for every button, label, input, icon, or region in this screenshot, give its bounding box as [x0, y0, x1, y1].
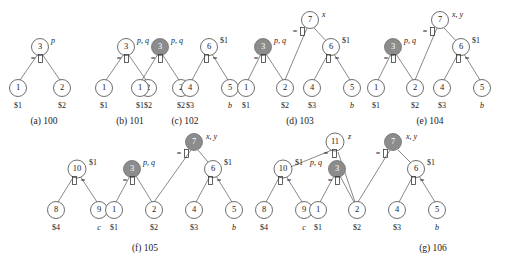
node-6-label: 6	[207, 41, 211, 51]
edge	[42, 54, 60, 80]
panel-d: 7 x = 3 p, q = 1 $1 2 $2 6 $1 = 4 $3 5 b…	[248, 8, 383, 128]
node-3-op-equals: =	[254, 54, 259, 63]
node-3-label: 3	[130, 163, 134, 173]
node-7-op-equals: =	[177, 149, 182, 158]
node-1-label: 1	[112, 204, 116, 214]
node-6-op-equals: =	[335, 54, 340, 63]
node-11-op-equals: =	[324, 149, 329, 158]
node-5-label: 5	[228, 82, 232, 92]
node-7-op-equals: =	[376, 149, 381, 158]
node-2-label: 2	[355, 204, 359, 214]
node-3-side-label: p, q	[142, 158, 155, 167]
node-5-label: 5	[435, 204, 439, 214]
node-1-label: 1	[102, 82, 106, 92]
node-1-label: 1	[374, 82, 378, 92]
node-8-leaf-label: $4	[52, 223, 60, 232]
node-3-side-label: p, q	[273, 36, 286, 45]
node-3-side-label: p	[50, 36, 55, 45]
node-5-leaf-label: b	[228, 101, 232, 110]
node-1-label: 1	[138, 82, 142, 92]
node-7-side-label: x	[321, 10, 326, 19]
panel-e-caption: (e) 104	[416, 116, 443, 127]
node-7-op-box-icon	[431, 28, 435, 36]
node-9-label: 9	[97, 204, 101, 214]
panel-f-caption: (f) 105	[132, 243, 158, 254]
panel-d-caption: (d) 103	[286, 116, 314, 127]
node-10-op-equals: =	[81, 176, 86, 185]
node-5-label: 5	[350, 82, 354, 92]
edge	[396, 54, 413, 80]
node-10-label: 10	[73, 163, 82, 173]
node-3-op-equals: =	[31, 54, 36, 63]
node-2-label: 2	[152, 204, 156, 214]
node-3-op-equals: =	[117, 54, 122, 63]
node-4-leaf-label: $3	[393, 223, 401, 232]
node-3-label: 3	[158, 41, 162, 51]
node-5-leaf-label: b	[232, 223, 236, 232]
edge	[266, 176, 280, 202]
node-5-leaf-label: b	[480, 101, 484, 110]
node-2-label: 2	[283, 82, 287, 92]
node-3-op-equals: =	[151, 54, 156, 63]
node-8-leaf-label: $4	[260, 223, 268, 232]
node-6-label: 6	[414, 163, 418, 173]
edge	[106, 54, 124, 80]
panel-e: 7 x, y = 3 p, q = 1 $1 2 $2 6 $1 = 4 $3 …	[378, 8, 518, 128]
node-3-side-label: p, q	[170, 36, 183, 45]
node-8-label: 8	[262, 204, 266, 214]
node-1-leaf-label: $1	[136, 101, 144, 110]
node-7-op-box-icon	[384, 150, 388, 158]
node-5-leaf-label: b	[435, 223, 439, 232]
panel-f: 10 $1 = 8 $4 9 c 7 x, y = 3 p, q = 1 $1 …	[48, 130, 238, 258]
node-9-label: 9	[302, 204, 306, 214]
node-6-label: 6	[211, 163, 215, 173]
edge	[20, 54, 38, 80]
node-7-label: 7	[438, 14, 442, 24]
edge	[340, 176, 354, 202]
edge	[162, 54, 179, 80]
panel-c: 3 p, q = 1 $1 2 $2 6 $1 = 4 $3 5 b (c) 1…	[128, 28, 253, 128]
node-6-op-equals: =	[420, 176, 425, 185]
node-11-label: 11	[331, 136, 339, 146]
node-10-op-equals: =	[287, 176, 292, 185]
node-6-label: 6	[459, 41, 463, 51]
node-8-label: 8	[54, 204, 58, 214]
node-3-op-equals: =	[328, 176, 333, 185]
edge	[266, 54, 283, 80]
panel-c-caption: (c) 102	[171, 116, 198, 127]
node-7-op-equals: =	[293, 27, 298, 36]
node-6-side-label: $1	[427, 158, 435, 167]
node-6-label: 6	[329, 41, 333, 51]
node-1-leaf-label: $1	[100, 101, 108, 110]
node-2-label: 2	[413, 82, 417, 92]
node-1-label: 1	[316, 204, 320, 214]
node-3-label: 3	[391, 41, 395, 51]
node-1-leaf-label: $1	[372, 101, 380, 110]
node-6-side-label: $1	[472, 36, 480, 45]
node-1-leaf-label: $1	[110, 223, 118, 232]
edge	[444, 54, 458, 80]
node-11-side-label: z	[347, 132, 352, 141]
figure-canvas: 3 p = 1 $1 2 $2 (a) 100 3 p, q = 1 $1 2 …	[0, 0, 522, 260]
node-3-side-label: p, q	[403, 36, 416, 45]
node-1-leaf-label: $1	[14, 101, 22, 110]
node-4-leaf-label: $3	[308, 101, 316, 110]
node-6-side-label: $1	[224, 158, 232, 167]
node-3-label: 3	[261, 41, 265, 51]
node-2-leaf-label: $2	[353, 223, 361, 232]
edge	[192, 54, 206, 80]
node-6-op-equals: =	[213, 54, 218, 63]
node-5-leaf-label: b	[350, 101, 354, 110]
node-9-leaf-label: c	[97, 223, 101, 232]
node-10-side-label: $1	[295, 158, 303, 167]
node-2-leaf-label: $2	[58, 101, 66, 110]
node-7-label: 7	[391, 136, 395, 146]
edge	[399, 176, 413, 202]
node-3-side-label: p, q	[309, 158, 322, 167]
node-3-label: 3	[38, 41, 42, 51]
edge	[136, 176, 152, 202]
panel-g: 11 z = 10 $1 = 8 $4 9 c 7 x, y = 3 p, q …	[248, 130, 460, 258]
node-7-side-label: x, y	[451, 10, 464, 19]
node-7-label: 7	[192, 136, 196, 146]
node-4-leaf-label: $3	[186, 101, 194, 110]
